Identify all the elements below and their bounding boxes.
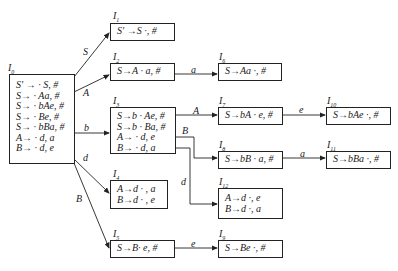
- edge-label-a: a: [191, 65, 196, 75]
- item: S→Aa ·, #: [225, 66, 281, 77]
- edge-label-d: d: [83, 153, 88, 163]
- edge-label-a-upper: A: [83, 88, 89, 98]
- edge-label-s: S: [83, 47, 88, 57]
- state-box-i11: S→bBa ·, #: [326, 151, 391, 169]
- state-box-i0: S' → · S, # S→ · Aa, # S→ · bAe, # S→ · …: [9, 74, 75, 164]
- edge-label-a-i8: a: [300, 149, 305, 159]
- item: S' → · S, #: [16, 80, 74, 91]
- edge-label-d-i3: d: [181, 177, 186, 187]
- edge-label-a-upper-i3: A: [193, 106, 199, 116]
- item: B→ · d, e: [16, 143, 74, 154]
- item: S→bA · e, #: [225, 110, 282, 121]
- item: S→ · bBa, #: [16, 122, 74, 133]
- state-box-i6: S→Aa ·, #: [218, 63, 282, 81]
- item: S→b · Ae, #: [117, 111, 175, 122]
- edge-label-e-i5: e: [191, 239, 195, 249]
- state-box-i4: A→d · , a B→d · , e: [110, 180, 168, 209]
- state-box-i8: S→bB · a, #: [218, 151, 283, 169]
- item: A→ · d, e: [117, 132, 175, 143]
- item: A→d · , a: [117, 184, 167, 195]
- edge-label-b-upper-i3: B: [182, 126, 188, 136]
- item: S→ · bAe, #: [16, 101, 74, 112]
- state-box-i5: S→B· e, #: [110, 240, 175, 258]
- state-box-i1: S' →S ·, #: [110, 23, 175, 41]
- item: S→bB · a, #: [225, 154, 282, 165]
- item: S' →S ·, #: [117, 26, 174, 37]
- state-box-i7: S→bA · e, #: [218, 107, 283, 125]
- edge-label-b-upper: B: [76, 194, 82, 204]
- item: B→d · , e: [117, 195, 167, 206]
- item: B→d ·, a: [225, 204, 282, 215]
- state-box-i9: S→Be ·, #: [218, 240, 283, 258]
- item: S→B· e, #: [117, 243, 174, 254]
- state-box-i3: S→b · Ae, # S→b · Ba, # A→ · d, e B→ · d…: [110, 107, 176, 154]
- edge-label-b: b: [84, 123, 89, 133]
- state-box-i2: S→A · a, #: [110, 63, 175, 81]
- item: S→bBa ·, #: [333, 154, 390, 165]
- item: S→A · a, #: [117, 66, 174, 77]
- item: S→Be ·, #: [225, 243, 282, 254]
- item: A→d ·, e: [225, 193, 282, 204]
- state-box-i10: S→bAe ·, #: [326, 107, 391, 125]
- item: B→ · d, a: [117, 143, 175, 154]
- edge-label-e-i7: e: [299, 105, 303, 115]
- state-box-i12: A→d ·, e B→d ·, a: [218, 188, 283, 219]
- item: S→bAe ·, #: [333, 110, 390, 121]
